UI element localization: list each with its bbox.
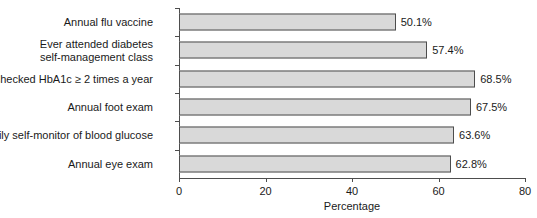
x-axis-tick — [352, 178, 353, 182]
bar-diabetes-self-management-class — [179, 42, 427, 59]
bar-value-label: 68.5% — [475, 73, 511, 85]
bar-row: Annual eye exam 62.8% — [179, 150, 525, 178]
bar-row: Checked HbA1c ≥ 2 times a year 68.5% — [179, 65, 525, 93]
bar-annual-foot-exam — [179, 99, 471, 116]
x-axis-tick-label: 60 — [432, 185, 444, 197]
bar-category-label: Annual foot exam — [0, 101, 153, 114]
plot-area: Annual flu vaccine 50.1% Ever attended d… — [179, 8, 525, 178]
y-axis-tick — [175, 150, 179, 151]
y-axis-tick — [175, 8, 179, 9]
bar-row: Annual flu vaccine 50.1% — [179, 8, 525, 36]
bar-annual-flu-vaccine — [179, 14, 396, 31]
bar-category-label: Ever attended diabetes self-management c… — [0, 38, 153, 63]
y-axis-tick — [175, 121, 179, 122]
y-axis-tick — [175, 65, 179, 66]
bar-daily-self-monitor-blood-glucose — [179, 127, 454, 144]
bar-category-label: Annual flu vaccine — [0, 16, 153, 29]
x-axis-tick-label: 80 — [519, 185, 531, 197]
bar-checked-hba1c — [179, 70, 475, 87]
bar-chart: Annual flu vaccine 50.1% Ever attended d… — [0, 0, 537, 218]
x-axis-tick — [266, 178, 267, 182]
bar-value-label: 57.4% — [427, 44, 463, 56]
bar-value-label: 63.6% — [454, 129, 490, 141]
bar-value-label: 50.1% — [396, 16, 432, 28]
y-axis-tick — [175, 36, 179, 37]
bar-row: Annual foot exam 67.5% — [179, 93, 525, 121]
x-axis-tick-label: 0 — [176, 185, 182, 197]
x-axis-title: Percentage — [179, 200, 525, 212]
x-axis-tick-label: 40 — [346, 185, 358, 197]
bar-row: Daily self-monitor of blood glucose 63.6… — [179, 121, 525, 149]
x-axis-tick — [179, 178, 180, 182]
x-axis-tick — [439, 178, 440, 182]
bar-value-label: 62.8% — [451, 158, 487, 170]
bar-category-label: Checked HbA1c ≥ 2 times a year — [0, 73, 153, 86]
bar-value-label: 67.5% — [471, 101, 507, 113]
bar-category-label: Daily self-monitor of blood glucose — [0, 129, 153, 142]
x-axis-tick-label: 20 — [259, 185, 271, 197]
bar-category-label: Annual eye exam — [0, 158, 153, 171]
bar-row: Ever attended diabetes self-management c… — [179, 36, 525, 64]
x-axis-tick — [525, 178, 526, 182]
bar-annual-eye-exam — [179, 155, 451, 172]
y-axis-tick — [175, 93, 179, 94]
